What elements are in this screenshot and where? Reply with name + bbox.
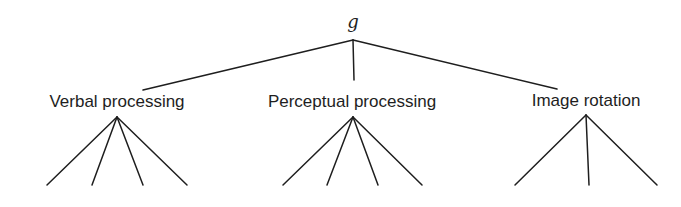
edge-factor-to-indicator (586, 115, 589, 185)
edge-factor-to-indicator (327, 117, 353, 185)
hierarchical-factor-diagram: g Verbal processing Perceptual processin… (0, 0, 681, 207)
edge-factor-to-indicator (47, 117, 117, 185)
edge-factor-to-indicator (117, 117, 187, 185)
edge-factor-to-indicator (353, 117, 422, 185)
edge-factor-to-indicator (586, 115, 657, 185)
edge-root-to-factor (353, 40, 557, 89)
edge-factor-to-indicator (515, 115, 586, 185)
edge-root-to-factor (353, 40, 354, 80)
factor-node-verbal-processing: Verbal processing (49, 92, 184, 112)
edge-factor-to-indicator (117, 117, 143, 185)
edge-factor-to-indicator (92, 117, 117, 185)
edge-root-to-factor (143, 40, 353, 90)
factor-node-image-rotation: Image rotation (532, 91, 641, 111)
factor-node-perceptual-processing: Perceptual processing (268, 92, 436, 112)
edge-factor-to-indicator (353, 117, 378, 185)
edge-factor-to-indicator (283, 117, 353, 185)
root-node-g: g (347, 12, 359, 32)
